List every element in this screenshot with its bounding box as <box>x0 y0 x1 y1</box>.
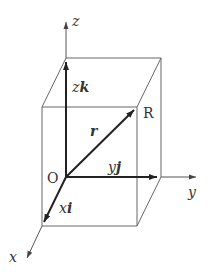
vector-r-label: r <box>90 123 99 139</box>
vector-yj-label: yj <box>107 159 121 175</box>
y-axis-label: y <box>187 184 197 200</box>
z-axis-label: z <box>71 13 80 29</box>
coordinate-diagram: z y x O R r zk yj xi <box>0 0 214 279</box>
x-axis <box>27 226 42 258</box>
component-vectors <box>44 62 157 222</box>
zk-unit: k <box>79 79 89 95</box>
xi-unit: i <box>67 200 72 216</box>
x-axis-label: x <box>9 249 17 265</box>
point-r-label: R <box>143 105 154 121</box>
axes <box>27 22 196 258</box>
vector-r <box>66 110 134 177</box>
vector-xi-label: xi <box>59 200 72 216</box>
vector-zk-label: zk <box>71 79 89 95</box>
origin-label: O <box>47 170 58 186</box>
xi-coef: x <box>59 200 67 216</box>
